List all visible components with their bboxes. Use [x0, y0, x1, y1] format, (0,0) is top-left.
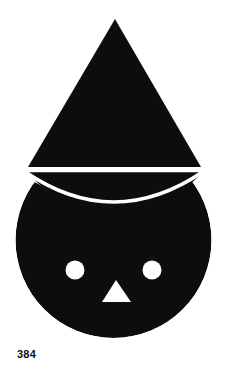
left-eye [66, 261, 85, 280]
figure-caption: 384 [17, 348, 36, 361]
droplet-face-figure [0, 0, 229, 376]
figure-container: 384 [0, 0, 229, 376]
right-eye [143, 261, 162, 280]
